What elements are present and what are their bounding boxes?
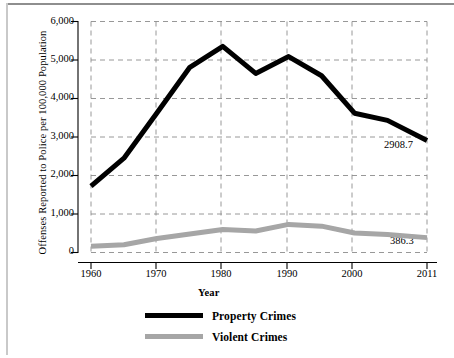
- legend-swatch-violent-crimes: [145, 334, 203, 339]
- legend-label-property-crimes: Property Crimes: [212, 310, 296, 322]
- chart-figure: Offenses Reported to Police per 100,000 …: [0, 0, 454, 358]
- y-tick-marks: [71, 22, 78, 253]
- legend-item-property-crimes: Property Crimes: [145, 305, 385, 326]
- series-line-property-crimes: [91, 46, 427, 186]
- series-line-violent-crimes: [91, 224, 427, 246]
- chart-legend: Property Crimes Violent Crimes: [145, 305, 385, 347]
- legend-swatch-property-crimes: [145, 313, 203, 318]
- legend-item-violent-crimes: Violent Crimes: [145, 326, 385, 347]
- legend-label-violent-crimes: Violent Crimes: [212, 331, 287, 343]
